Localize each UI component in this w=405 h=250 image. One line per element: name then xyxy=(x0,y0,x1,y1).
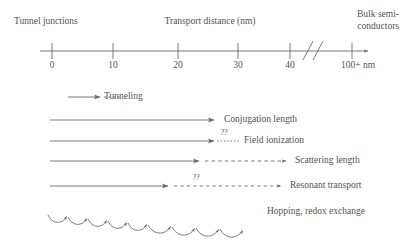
hop-arc-1 xyxy=(48,215,67,222)
hop-arc-6 xyxy=(148,225,171,233)
hopping-scalloped-curve xyxy=(48,215,243,237)
hop-arc-5 xyxy=(128,223,147,230)
hop-arc-9 xyxy=(220,229,243,237)
axis-break-slash-1 xyxy=(303,41,313,60)
hop-arc-4 xyxy=(108,221,127,228)
hop-arc-7 xyxy=(172,227,195,235)
hop-arc-3 xyxy=(88,219,107,226)
hop-arc-2 xyxy=(68,217,87,224)
hop-arc-8 xyxy=(196,228,219,236)
transport-distance-diagram: Tunnel junctions Transport distance (nm)… xyxy=(0,0,405,250)
axis-break-slash-2 xyxy=(313,41,323,60)
diagram-vector-layer xyxy=(0,0,405,250)
